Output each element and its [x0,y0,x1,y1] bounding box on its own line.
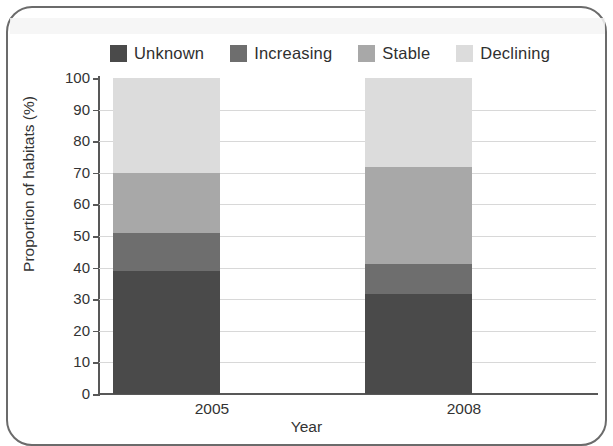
legend-label: Stable [382,44,430,63]
bar-segment-increasing-2008[interactable] [365,264,472,294]
y-tick-mark-40 [93,268,98,270]
y-tick-mark-10 [93,362,98,364]
bar-segment-declining-2008[interactable] [365,78,472,166]
y-tick-mark-20 [93,331,98,333]
y-tick-label-50: 50 [54,227,90,244]
y-tick-mark-30 [93,299,98,301]
y-tick-mark-90 [93,110,98,112]
bar-segment-unknown-2005[interactable] [113,271,220,394]
legend-label: Increasing [254,44,332,63]
y-tick-label-60: 60 [54,195,90,212]
y-tick-label-70: 70 [54,164,90,181]
x-tick-label-2005: 2005 [152,400,272,418]
y-tick-mark-70 [93,173,98,175]
legend-swatch-icon [230,45,247,62]
chart-legend: Unknown Increasing Stable Declining [110,42,550,64]
legend-item-stable[interactable]: Stable [358,44,430,63]
y-tick-label-30: 30 [54,290,90,307]
y-tick-label-80: 80 [54,132,90,149]
y-tick-label-100: 100 [54,69,90,86]
y-tick-label-20: 20 [54,322,90,339]
y-tick-mark-60 [93,204,98,206]
y-tick-label-90: 90 [54,101,90,118]
bar-segment-stable-2005[interactable] [113,173,220,233]
legend-label: Unknown [134,44,204,63]
stacked-bar-2008[interactable] [365,78,472,394]
legend-item-unknown[interactable]: Unknown [110,44,204,63]
legend-item-increasing[interactable]: Increasing [230,44,332,63]
legend-item-declining[interactable]: Declining [456,44,550,63]
bar-segment-stable-2008[interactable] [365,167,472,265]
plot-area [99,78,596,394]
y-tick-label-40: 40 [54,259,90,276]
y-tick-label-0: 0 [54,385,90,402]
y-tick-mark-50 [93,236,98,238]
y-axis-title: Proportion of habitats (%) [20,69,38,299]
y-tick-mark-0 [93,394,98,396]
bar-segment-unknown-2008[interactable] [365,294,472,394]
legend-label: Declining [480,44,550,63]
bar-segment-declining-2005[interactable] [113,78,220,173]
legend-swatch-icon [358,45,375,62]
x-tick-label-2008: 2008 [404,400,524,418]
y-tick-mark-80 [93,141,98,143]
legend-swatch-icon [456,45,473,62]
bar-segment-increasing-2005[interactable] [113,233,220,271]
x-axis-title: Year [0,418,613,436]
stacked-bar-2005[interactable] [113,78,220,394]
y-tick-label-10: 10 [54,353,90,370]
legend-swatch-icon [110,45,127,62]
y-tick-mark-100 [93,78,98,80]
